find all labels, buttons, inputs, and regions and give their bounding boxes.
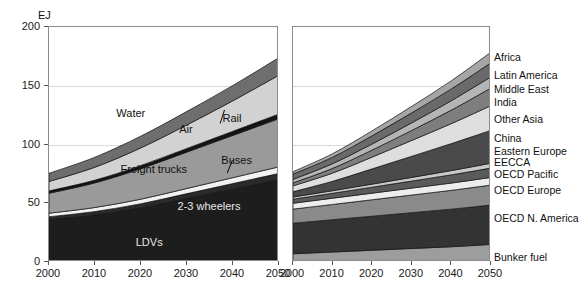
ytick-label-200: 200 xyxy=(4,21,40,32)
ytick-200 xyxy=(44,26,48,27)
legend-item-latin-america: Latin America xyxy=(494,70,558,81)
annotation-freight-trucks: Freight trucks xyxy=(120,164,187,175)
annotation-air: Air xyxy=(179,124,192,135)
xtick-1-2000 xyxy=(292,261,293,265)
xtick-0-2050 xyxy=(278,261,279,265)
legend-item-bunker-fuel: Bunker fuel xyxy=(494,252,547,263)
xtick-label-0-2020: 2020 xyxy=(123,268,157,279)
xtick-label-0-2040: 2040 xyxy=(215,268,249,279)
stacked-area-series xyxy=(49,27,278,261)
figure-container: 200020102020203020402050050100150200Wate… xyxy=(0,0,583,290)
y-axis-unit-label: EJ xyxy=(38,9,51,21)
xtick-1-2020 xyxy=(371,261,372,265)
annotation-2-3-wheelers: 2-3 wheelers xyxy=(178,200,241,211)
xtick-label-1-2030: 2030 xyxy=(394,268,428,279)
xtick-0-2020 xyxy=(140,261,141,265)
xtick-0-2000 xyxy=(48,261,49,265)
ytick-150 xyxy=(44,85,48,86)
xtick-label-1-2000: 2000 xyxy=(275,268,309,279)
xtick-label-0-2030: 2030 xyxy=(169,268,203,279)
xtick-label-1-2050: 2050 xyxy=(473,268,507,279)
legend-item-africa: Africa xyxy=(494,52,521,63)
xtick-0-2030 xyxy=(186,261,187,265)
xtick-1-2030 xyxy=(411,261,412,265)
annotation-ldvs: LDVs xyxy=(136,237,163,248)
legend-item-china: China xyxy=(494,133,521,144)
ytick-100 xyxy=(44,144,48,145)
annotation-water: Water xyxy=(116,107,145,118)
xtick-1-2040 xyxy=(450,261,451,265)
xtick-label-1-2040: 2040 xyxy=(433,268,467,279)
legend-item-middle-east: Middle East xyxy=(494,84,549,95)
xtick-1-2050 xyxy=(490,261,491,265)
ytick-label-100: 100 xyxy=(4,139,40,150)
xtick-label-0-2000: 2000 xyxy=(31,268,65,279)
xtick-0-2040 xyxy=(232,261,233,265)
annotation-rail: Rail xyxy=(223,112,242,123)
xtick-label-1-2020: 2020 xyxy=(354,268,388,279)
legend-item-eecca: EECCA xyxy=(494,157,530,168)
ytick-label-0: 0 xyxy=(4,256,40,267)
legend-item-oecd-n-america: OECD N. America xyxy=(494,213,579,224)
xtick-0-2010 xyxy=(94,261,95,265)
ytick-label-150: 150 xyxy=(4,80,40,91)
legend-item-oecd-europe: OECD Europe xyxy=(494,185,561,196)
plot-area-by-mode xyxy=(48,26,278,261)
legend-item-other-asia: Other Asia xyxy=(494,114,543,125)
xtick-label-0-2010: 2010 xyxy=(77,268,111,279)
legend-item-india: India xyxy=(494,97,517,108)
annotation-buses: Buses xyxy=(221,154,252,165)
ytick-50 xyxy=(44,202,48,203)
ytick-0 xyxy=(44,261,48,262)
xtick-1-2010 xyxy=(332,261,333,265)
stacked-area-series xyxy=(293,27,490,261)
xtick-label-1-2010: 2010 xyxy=(315,268,349,279)
ytick-label-50: 50 xyxy=(4,197,40,208)
legend-item-oecd-pacific: OECD Pacific xyxy=(494,169,558,180)
plot-area-by-region xyxy=(292,26,490,261)
